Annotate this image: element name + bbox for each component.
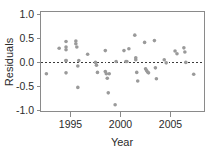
data-point bbox=[154, 66, 158, 70]
x-tick-label-2: 2000 bbox=[109, 118, 133, 130]
data-point bbox=[122, 49, 126, 53]
data-point bbox=[64, 48, 68, 52]
data-point bbox=[134, 58, 138, 62]
data-point bbox=[107, 72, 111, 76]
data-point bbox=[106, 91, 110, 95]
data-point bbox=[135, 71, 139, 75]
data-point bbox=[76, 64, 80, 68]
data-point bbox=[183, 50, 187, 54]
data-point bbox=[153, 39, 157, 43]
data-point bbox=[104, 49, 108, 53]
residuals-scatter-chart: 1.0 0.5 0.0 -0.5 -1.0 1995 2000 2005 Yea… bbox=[0, 0, 215, 154]
data-point bbox=[162, 58, 166, 62]
data-point bbox=[133, 33, 137, 37]
y-tick-label-5: -1.0 bbox=[16, 104, 34, 116]
x-tick-label-1: 1995 bbox=[59, 118, 83, 130]
y-axis-ticks bbox=[37, 15, 41, 111]
data-point bbox=[113, 103, 117, 107]
y-tick-label-3: 0.0 bbox=[19, 56, 34, 68]
y-tick-label-2: 0.5 bbox=[19, 32, 34, 44]
data-point bbox=[64, 71, 68, 75]
data-point bbox=[143, 41, 147, 45]
data-point bbox=[147, 71, 151, 75]
data-point bbox=[75, 45, 79, 49]
data-point bbox=[86, 52, 90, 56]
y-tick-label-4: -0.5 bbox=[16, 80, 34, 92]
data-point bbox=[57, 47, 61, 51]
x-axis-ticks bbox=[71, 112, 171, 117]
data-point bbox=[95, 63, 99, 67]
data-point bbox=[155, 77, 159, 81]
x-axis-title: Year bbox=[111, 136, 134, 148]
y-tick-label-1: 1.0 bbox=[19, 8, 34, 20]
data-point bbox=[127, 47, 131, 51]
data-point bbox=[192, 72, 196, 76]
data-point bbox=[164, 61, 168, 65]
y-axis-title: Residuals bbox=[3, 37, 15, 86]
data-point bbox=[175, 52, 179, 56]
data-point bbox=[45, 72, 49, 76]
data-point bbox=[64, 59, 68, 63]
data-point bbox=[136, 79, 140, 83]
data-point bbox=[74, 42, 78, 46]
data-point bbox=[64, 40, 68, 44]
data-point bbox=[184, 61, 188, 65]
data-point bbox=[77, 59, 81, 63]
data-point bbox=[125, 60, 129, 64]
data-point bbox=[96, 71, 100, 75]
x-tick-label-3: 2005 bbox=[159, 118, 183, 130]
chart-canvas: 1.0 0.5 0.0 -0.5 -1.0 1995 2000 2005 Yea… bbox=[0, 0, 215, 154]
data-point bbox=[182, 46, 186, 50]
data-point bbox=[114, 60, 118, 64]
data-point bbox=[76, 86, 80, 90]
data-point bbox=[105, 77, 109, 81]
scatter-points-layer bbox=[45, 33, 196, 106]
